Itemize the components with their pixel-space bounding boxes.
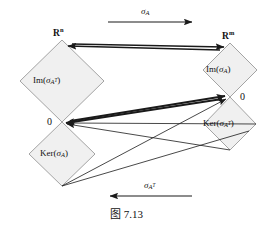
- figure-caption: 图 7.13: [110, 209, 143, 220]
- domain-symbol: R: [53, 28, 60, 38]
- im-a-kind: Im: [206, 64, 216, 74]
- label-map-backward: σAT: [144, 181, 155, 191]
- codomain-exponent: m: [229, 29, 234, 36]
- codomain-symbol: R: [222, 31, 229, 41]
- ker-at-kind: Ker: [203, 118, 217, 128]
- backward-sup: T: [152, 182, 155, 188]
- forward-sub: A: [145, 9, 149, 16]
- label-im-sigma-a-transpose: Im(σAT): [33, 76, 60, 86]
- im-at-kind: Im: [33, 75, 43, 85]
- label-ker-sigma-a-transpose: Ker(σAT): [203, 119, 234, 129]
- figure-container: Rn Rm Im(σAT) Ker(σA) Im(σA) Ker(σAT) 0 …: [0, 0, 273, 232]
- label-map-forward: σA: [141, 7, 149, 17]
- domain-exponent: n: [60, 26, 64, 33]
- label-origin-left: 0: [47, 117, 52, 127]
- label-ker-sigma-a: Ker(σA): [40, 149, 68, 159]
- ker-a-kind: Ker: [40, 148, 54, 158]
- arrow-origins-bidirectional: [66, 96, 225, 123]
- label-origin-right: 0: [240, 92, 245, 102]
- label-codomain-space: Rm: [222, 30, 234, 42]
- arrow-ker-a-to-right-origin: [62, 99, 226, 186]
- label-im-sigma-a: Im(σA): [206, 65, 230, 75]
- arrow-top-bidirectional: [68, 44, 224, 50]
- label-domain-space: Rn: [53, 27, 64, 39]
